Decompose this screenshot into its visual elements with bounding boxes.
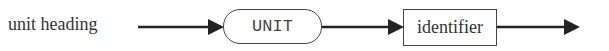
arrowhead-icon (388, 19, 404, 35)
arrowhead-icon (564, 19, 580, 35)
nonterminal-identifier: identifier (403, 9, 497, 46)
nonterminal-identifier-text: identifier (417, 17, 483, 38)
terminal-unit: UNIT (223, 9, 322, 44)
arrowhead-icon (208, 19, 224, 35)
terminal-unit-text: UNIT (252, 17, 293, 36)
